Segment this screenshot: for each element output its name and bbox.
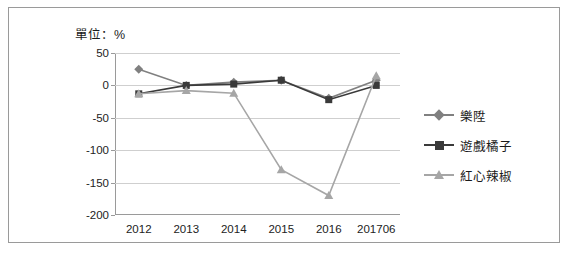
x-tick-label: 2014 [221, 223, 247, 235]
x-tick-label: 2012 [126, 223, 152, 235]
series-line [139, 80, 377, 99]
plot-area: 500-50-100-150-200 201220132014201520162… [115, 53, 400, 215]
legend-marker-icon [424, 168, 454, 182]
x-tick-label: 2016 [316, 223, 342, 235]
y-tick-label: -150 [86, 177, 109, 189]
x-tick-label: 2015 [268, 223, 294, 235]
y-tick-label: 0 [103, 79, 109, 91]
series-lines [115, 53, 400, 215]
data-point-marker [277, 165, 286, 173]
data-point-marker [325, 96, 332, 103]
y-tick-label: -200 [86, 209, 109, 221]
legend-label: 遊戲橘子 [460, 136, 512, 155]
legend-item[interactable]: 遊戲橘子 [424, 130, 549, 160]
data-point-marker [230, 81, 237, 88]
x-tick-label: 2013 [173, 223, 199, 235]
series-line [139, 69, 377, 98]
data-point-marker [278, 77, 285, 84]
y-tick-label: -100 [86, 144, 109, 156]
x-tick-label: 201706 [357, 223, 395, 235]
unit-label: 單位：% [75, 24, 125, 43]
y-tick-label: -50 [92, 112, 109, 124]
legend-label: 紅心辣椒 [460, 166, 512, 185]
data-point-marker [134, 65, 143, 74]
data-point-marker [372, 71, 381, 79]
y-tick-mark [111, 215, 115, 216]
legend-item[interactable]: 紅心辣椒 [424, 160, 549, 190]
chart-frame: 單位：% 500-50-100-150-200 2012201320142015… [8, 7, 560, 243]
legend-marker-icon [424, 138, 454, 152]
legend-label: 樂陞 [460, 106, 486, 125]
y-tick-label: 50 [96, 47, 109, 59]
legend-item[interactable]: 樂陞 [424, 100, 549, 130]
data-point-marker [324, 191, 333, 199]
legend-marker-icon [424, 108, 454, 122]
chart-legend: 樂陞遊戲橘子紅心辣椒 [424, 100, 549, 190]
